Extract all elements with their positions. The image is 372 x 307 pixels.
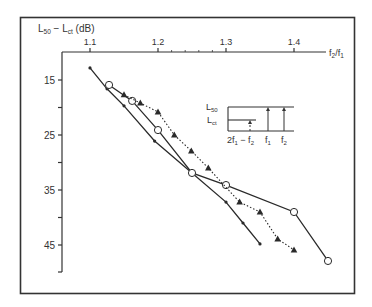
data-point bbox=[153, 139, 156, 142]
figure-frame bbox=[21, 18, 355, 294]
inset-label-L50: L50 bbox=[206, 102, 218, 113]
series-dot bbox=[88, 66, 261, 245]
data-point bbox=[188, 147, 195, 153]
x-tick-label: 1.1 bbox=[84, 37, 97, 47]
y-tick-label: 15 bbox=[44, 75, 56, 86]
data-point bbox=[224, 201, 227, 204]
data-point bbox=[154, 126, 161, 133]
x-axis: 1.1 1.2 1.3 1.4 f2/f1 bbox=[62, 37, 344, 59]
data-point bbox=[88, 66, 91, 69]
data-point bbox=[290, 208, 297, 215]
data-point bbox=[291, 246, 298, 252]
inset-label-Lct: Lct bbox=[207, 115, 217, 126]
data-point bbox=[236, 199, 243, 205]
x-tick-label: 1.4 bbox=[288, 37, 301, 47]
inset-diagram: L50 Lct 2f1 − f2 f1 f2 bbox=[206, 102, 294, 146]
data-point bbox=[257, 209, 264, 215]
chart-figure: L50 − Lct (dB) 1.1 1.2 1.3 1.4 f2/f1 15 … bbox=[0, 0, 372, 307]
data-point bbox=[241, 221, 244, 224]
data-point bbox=[155, 108, 162, 114]
y-axis-title: L50 − Lct (dB) bbox=[38, 23, 95, 35]
data-point bbox=[324, 257, 331, 264]
y-axis: 15 25 35 45 bbox=[44, 52, 62, 272]
y-tick-label: 25 bbox=[44, 130, 56, 141]
x-tick-label: 1.2 bbox=[152, 37, 165, 47]
inset-label-f1: f1 bbox=[265, 135, 272, 146]
data-point bbox=[171, 132, 178, 138]
data-point bbox=[105, 81, 112, 88]
x-axis-title: f2/f1 bbox=[329, 48, 344, 59]
y-tick-label: 45 bbox=[44, 240, 56, 251]
plot-area bbox=[88, 66, 331, 264]
data-point bbox=[137, 100, 144, 106]
data-point bbox=[122, 104, 125, 107]
inset-label-f2: f2 bbox=[281, 135, 288, 146]
data-point bbox=[188, 169, 195, 176]
y-tick-label: 35 bbox=[44, 185, 56, 196]
series-open-circle bbox=[105, 81, 331, 264]
data-point bbox=[205, 165, 212, 171]
data-point bbox=[258, 242, 261, 245]
x-tick-label: 1.3 bbox=[220, 37, 233, 47]
data-point bbox=[129, 97, 136, 104]
inset-label-2f1-f2: 2f1 − f2 bbox=[227, 135, 255, 146]
